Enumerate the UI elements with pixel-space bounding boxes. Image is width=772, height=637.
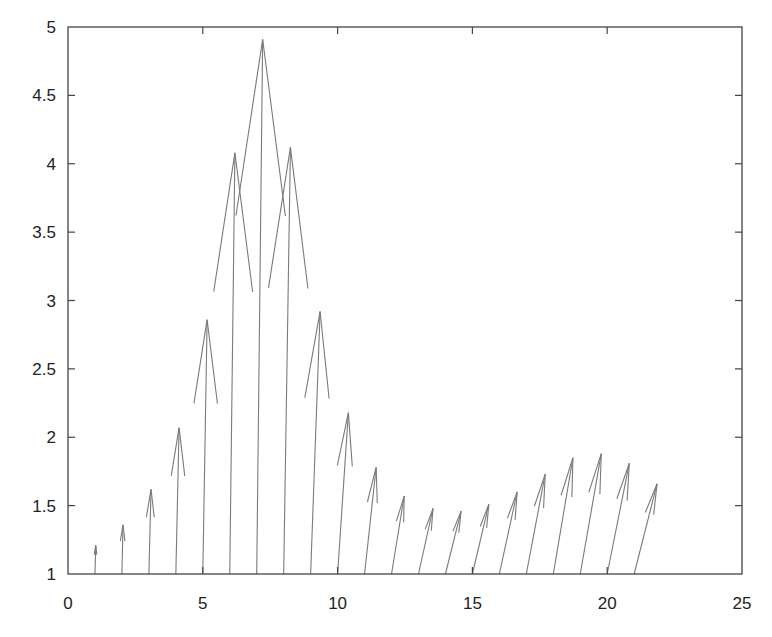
x-tick-label: 25: [733, 594, 752, 613]
plot-area: [68, 27, 742, 574]
y-tick-label: 2.5: [32, 360, 56, 379]
y-axis-tick-labels: 11.522.533.544.55: [32, 18, 56, 584]
y-tick-label: 3.5: [32, 223, 56, 242]
y-tick-label: 3: [47, 292, 56, 311]
y-tick-label: 1.5: [32, 497, 56, 516]
x-tick-label: 10: [328, 594, 347, 613]
x-axis-tick-labels: 0510152025: [63, 594, 751, 613]
y-tick-label: 1: [47, 565, 56, 584]
x-tick-label: 15: [463, 594, 482, 613]
y-tick-label: 4.5: [32, 86, 56, 105]
x-tick-label: 20: [598, 594, 617, 613]
y-tick-label: 2: [47, 428, 56, 447]
y-tick-label: 4: [47, 155, 56, 174]
y-tick-label: 5: [47, 18, 56, 37]
x-tick-label: 5: [198, 594, 207, 613]
quiver-chart: 0510152025 11.522.533.544.55: [0, 0, 772, 637]
x-tick-label: 0: [63, 594, 72, 613]
